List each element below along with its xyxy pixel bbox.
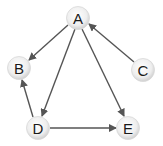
node-d-label: D — [33, 120, 44, 137]
node-c-label: C — [138, 62, 149, 79]
edge-a-to-b — [29, 25, 68, 60]
node-a[interactable]: A — [67, 7, 90, 30]
edges — [22, 24, 134, 128]
node-d[interactable]: D — [27, 117, 50, 140]
graph-canvas: A B C D E — [0, 0, 163, 146]
node-b[interactable]: B — [8, 57, 31, 80]
node-a-label: A — [73, 10, 83, 27]
edge-d-to-b — [22, 80, 33, 117]
edge-a-to-d — [42, 29, 75, 116]
edge-a-to-e — [82, 29, 124, 116]
node-b-label: B — [14, 60, 24, 77]
node-e[interactable]: E — [117, 117, 140, 140]
node-c[interactable]: C — [132, 59, 155, 82]
node-e-label: E — [123, 120, 133, 137]
